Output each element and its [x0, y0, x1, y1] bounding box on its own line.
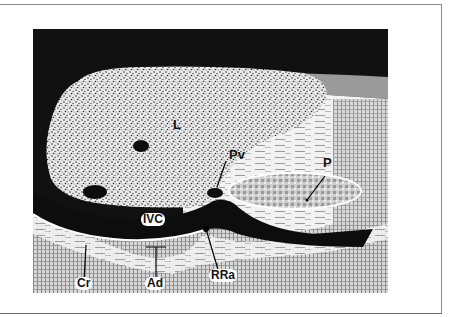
label-liver: L [173, 118, 181, 131]
figure-illustration [33, 29, 388, 293]
label-crus: Cr [75, 277, 92, 290]
frame-top-border [0, 4, 442, 5]
label-adrenal: Ad [145, 277, 165, 290]
frame-right-border [441, 4, 442, 314]
frame-bottom-border [0, 313, 442, 314]
anatomical-figure: L Pv P IVC Cr Ad RRa [33, 29, 388, 293]
label-portal-vein: Pv [229, 148, 245, 161]
label-right-renal-artery: RRa [209, 269, 237, 282]
label-pancreas: P [323, 156, 332, 169]
label-ivc: IVC [141, 213, 165, 226]
